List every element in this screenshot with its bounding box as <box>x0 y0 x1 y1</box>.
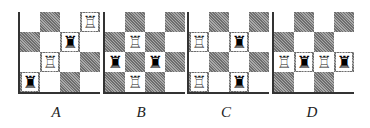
black-rook-icon: ♜ <box>231 72 246 92</box>
light-square <box>229 12 249 32</box>
board-c: ♖♜♖♜ <box>187 12 269 94</box>
dark-square <box>145 32 165 52</box>
dark-square <box>249 12 269 32</box>
dark-square: ♜ <box>20 72 40 92</box>
light-square <box>145 12 165 32</box>
dark-square <box>294 12 314 32</box>
dark-square <box>334 12 354 32</box>
dark-square: ♖ <box>189 32 209 52</box>
dark-square: ♜ <box>294 52 314 72</box>
piece-square: ♖ <box>316 53 332 71</box>
light-square: ♜ <box>105 52 125 72</box>
dark-square: ♖ <box>80 12 100 32</box>
piece-square: ♖ <box>127 73 143 91</box>
dark-square <box>105 32 125 52</box>
light-square <box>165 72 185 92</box>
light-square <box>209 32 229 52</box>
light-square <box>40 32 60 52</box>
light-square: ♜ <box>145 52 165 72</box>
light-square <box>80 32 100 52</box>
piece-square: ♜ <box>336 53 352 71</box>
light-square <box>294 72 314 92</box>
dark-square: ♖ <box>40 52 60 72</box>
light-square <box>40 72 60 92</box>
dark-square <box>80 52 100 72</box>
white-rook-icon: ♖ <box>127 72 142 92</box>
light-square: ♖ <box>274 52 294 72</box>
dark-square: ♜ <box>334 52 354 72</box>
light-square <box>189 52 209 72</box>
dark-square <box>165 12 185 32</box>
light-square: ♖ <box>125 32 145 52</box>
dark-square <box>274 32 294 52</box>
board-d: ♖♜♖♜ <box>272 12 354 94</box>
board-b: ♖♜♜♖ <box>103 12 185 94</box>
piece-square: ♖ <box>82 13 98 31</box>
board-d-label: D <box>272 104 352 121</box>
dark-square <box>314 32 334 52</box>
piece-square: ♜ <box>107 53 123 71</box>
light-square: ♖ <box>125 72 145 92</box>
piece-square: ♖ <box>276 53 292 71</box>
black-rook-icon: ♜ <box>336 52 351 72</box>
light-square <box>249 72 269 92</box>
light-square <box>314 12 334 32</box>
piece-square: ♜ <box>231 73 247 91</box>
piece-square: ♖ <box>42 53 58 71</box>
board-b-label: B <box>101 104 181 121</box>
black-rook-icon: ♜ <box>62 32 77 52</box>
dark-square <box>105 72 125 92</box>
piece-square: ♜ <box>62 33 78 51</box>
dark-square: ♜ <box>229 32 249 52</box>
piece-square: ♖ <box>127 33 143 51</box>
dark-square <box>125 12 145 32</box>
dark-square <box>40 12 60 32</box>
dark-square <box>165 52 185 72</box>
black-rook-icon: ♜ <box>147 52 162 72</box>
dark-square <box>249 52 269 72</box>
light-square <box>20 52 40 72</box>
light-square <box>334 72 354 92</box>
black-rook-icon: ♜ <box>296 52 311 72</box>
dark-square <box>145 72 165 92</box>
dark-square <box>314 72 334 92</box>
dark-square <box>209 52 229 72</box>
white-rook-icon: ♖ <box>316 52 331 72</box>
board-c-label: C <box>186 104 266 121</box>
light-square <box>274 12 294 32</box>
light-square <box>60 52 80 72</box>
light-square: ♖ <box>314 52 334 72</box>
light-square <box>60 12 80 32</box>
white-rook-icon: ♖ <box>82 12 97 32</box>
white-rook-icon: ♖ <box>42 52 57 72</box>
white-rook-icon: ♖ <box>191 72 206 92</box>
black-rook-icon: ♜ <box>231 32 246 52</box>
dark-square <box>274 72 294 92</box>
dark-square <box>209 12 229 32</box>
dark-square <box>20 32 40 52</box>
piece-square: ♖ <box>191 33 207 51</box>
dark-square <box>60 72 80 92</box>
light-square <box>80 72 100 92</box>
light-square <box>20 12 40 32</box>
board-a: ♖♜♖♜ <box>18 12 100 94</box>
dark-square <box>125 52 145 72</box>
piece-square: ♜ <box>231 33 247 51</box>
dark-square: ♜ <box>60 32 80 52</box>
light-square <box>165 32 185 52</box>
piece-square: ♖ <box>191 73 207 91</box>
white-rook-icon: ♖ <box>127 32 142 52</box>
light-square <box>105 12 125 32</box>
light-square <box>334 32 354 52</box>
white-rook-icon: ♖ <box>191 32 206 52</box>
light-square <box>229 52 249 72</box>
piece-square: ♜ <box>22 73 38 91</box>
light-square <box>189 12 209 32</box>
board-a-label: A <box>16 104 96 121</box>
light-square <box>249 32 269 52</box>
piece-square: ♜ <box>296 53 312 71</box>
white-rook-icon: ♖ <box>276 52 291 72</box>
piece-square: ♜ <box>147 53 163 71</box>
dark-square: ♖ <box>189 72 209 92</box>
black-rook-icon: ♜ <box>107 52 122 72</box>
